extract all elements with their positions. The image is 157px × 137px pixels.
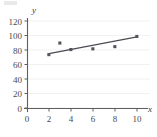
- x-tick-labels: 0 2 4 6 8 10: [25, 114, 142, 124]
- y-tick-label-60: 60: [13, 60, 23, 70]
- x-tick-label-10: 10: [133, 114, 143, 124]
- x-tick-label-2: 2: [47, 114, 52, 124]
- crop-artifact: [4, 1, 17, 5]
- gridlines: [27, 21, 150, 108]
- x-axis-label: x: [147, 104, 152, 114]
- x-tick-label-0: 0: [25, 114, 30, 124]
- x-tick-label-8: 8: [113, 114, 118, 124]
- trend-line: [49, 37, 137, 54]
- data-point-5: [113, 45, 116, 48]
- y-tick-label-80: 80: [13, 46, 23, 56]
- y-axis-label: y: [31, 5, 36, 15]
- y-tick-labels: 0 20 40 60 80 100 120: [9, 17, 23, 114]
- y-tick-label-40: 40: [13, 75, 23, 85]
- scatter-chart: 0 20 40 60 80 100 120 0 2 4 6 8 10 y x: [0, 0, 157, 137]
- data-point-3: [69, 48, 72, 51]
- x-tick-label-6: 6: [91, 114, 96, 124]
- data-point-4: [91, 47, 94, 50]
- data-point-6: [135, 35, 138, 38]
- y-tick-label-0: 0: [18, 104, 23, 114]
- x-tick-label-4: 4: [69, 114, 74, 124]
- y-tick-label-100: 100: [9, 31, 23, 41]
- chart-canvas: 0 20 40 60 80 100 120 0 2 4 6 8 10 y x: [0, 0, 157, 137]
- data-point-2: [58, 42, 61, 45]
- y-tick-label-20: 20: [13, 89, 23, 99]
- data-point-1: [47, 53, 50, 56]
- y-tick-label-120: 120: [9, 17, 23, 27]
